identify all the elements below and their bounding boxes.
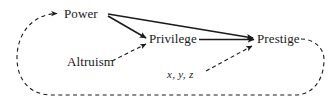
causal-path-diagram: Power Privilege Prestige Altruism x, y, …	[0, 0, 336, 105]
annotation-label-xyz: x, y, z	[167, 69, 194, 80]
node-label-altruism: Altruism	[67, 55, 114, 68]
node-label-power: Power	[64, 7, 98, 20]
diagram-canvas	[0, 0, 336, 105]
edge-xyz-to-prestige	[206, 46, 252, 71]
edge-altruism-to-privilege	[112, 44, 146, 61]
node-label-privilege: Privilege	[149, 32, 197, 45]
node-label-prestige: Prestige	[257, 32, 300, 45]
edge-prestige-to-power-feedback-loop	[17, 14, 324, 96]
